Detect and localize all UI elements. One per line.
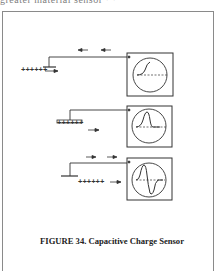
panel-2-scope-box xyxy=(127,106,172,147)
panel-3-charges: ++++++ xyxy=(78,177,105,186)
panel-1-trace xyxy=(137,62,150,75)
panel-3-wire xyxy=(70,163,127,176)
panel-2-trace xyxy=(136,112,160,127)
panel-1-wire xyxy=(49,57,127,67)
panel-1-signal-arrows xyxy=(78,49,111,52)
panel-2-charges: ++++++ xyxy=(57,118,84,127)
panel-1 xyxy=(43,49,173,97)
panel-1-motion-arrowhead xyxy=(54,70,58,73)
panel-3-scope-box xyxy=(127,158,172,200)
panel-1-scope-box xyxy=(127,53,173,96)
panel-1-charges: ++++++ xyxy=(21,65,48,74)
panel-3-signal-arrows xyxy=(86,156,117,159)
figure-caption: FIGURE 34. Capacitive Charge Sensor xyxy=(0,236,224,246)
panel-3-trace xyxy=(136,165,163,194)
